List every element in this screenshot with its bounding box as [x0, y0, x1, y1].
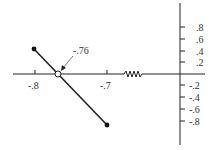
imag-label-neg-2: -.6: [189, 104, 200, 115]
imag-label-pos-2: .4: [196, 46, 204, 57]
annotation-label: -.76: [73, 45, 89, 56]
crossing-open-circle-icon: [55, 71, 61, 77]
imag-label-neg-1: -.4: [189, 92, 200, 103]
pole-upper-dot-icon: [32, 47, 37, 52]
tick-label-real-1: -.7: [100, 80, 111, 91]
root-locus-diagram: -.8 -.7 .8 .6 .4 .2 -.2 -.4 -.6 -.8 -.76: [0, 0, 219, 150]
pole-lower-dot-icon: [105, 123, 110, 128]
imag-label-pos-1: .6: [196, 34, 204, 45]
imag-label-neg-0: -.2: [189, 80, 200, 91]
imag-label-pos-3: .2: [196, 57, 204, 68]
locus-branch: [34, 49, 107, 125]
imag-label-neg-3: -.8: [189, 116, 200, 127]
axis-break-zigzag-icon: [124, 71, 142, 77]
annotation-arrow: [63, 56, 73, 68]
tick-label-real-0: -.8: [28, 80, 39, 91]
imag-label-pos-0: .8: [196, 22, 204, 33]
